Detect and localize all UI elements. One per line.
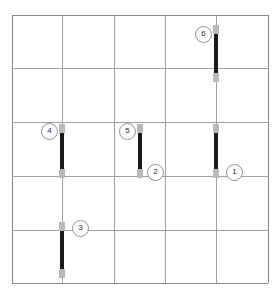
bar-3[interactable] <box>60 222 64 278</box>
diagram-canvas: 645213 <box>0 0 279 290</box>
bar-6[interactable] <box>214 25 218 82</box>
bar-cap-bottom <box>59 169 65 178</box>
marker-badge-2[interactable]: 2 <box>147 164 164 181</box>
bar-cap-top <box>137 124 143 133</box>
bar-cap-bottom <box>137 169 143 178</box>
marker-badge-5[interactable]: 5 <box>119 123 136 140</box>
gridline-horizontal-0 <box>12 15 268 16</box>
marker-badge-4[interactable]: 4 <box>41 123 58 140</box>
marker-badge-1[interactable]: 1 <box>226 164 243 181</box>
marker-badge-3[interactable]: 3 <box>72 220 89 237</box>
marker-badge-6[interactable]: 6 <box>195 26 212 43</box>
bar-1[interactable] <box>214 124 218 178</box>
bar-cap-bottom <box>213 73 219 82</box>
bar-cap-bottom <box>59 269 65 278</box>
gridline-vertical-0 <box>12 15 13 283</box>
bar-4[interactable] <box>60 124 64 178</box>
gridline-vertical-5 <box>268 15 269 283</box>
gridline-horizontal-1 <box>12 68 268 69</box>
gridline-vertical-2 <box>114 15 115 283</box>
bar-5-2[interactable] <box>138 124 142 178</box>
bar-cap-top <box>213 25 219 34</box>
gridline-vertical-3 <box>165 15 166 283</box>
gridline-horizontal-4 <box>12 230 268 231</box>
bar-cap-top <box>213 124 219 133</box>
bar-cap-top <box>59 222 65 231</box>
bar-cap-bottom <box>213 169 219 178</box>
gridline-horizontal-5 <box>12 283 268 284</box>
bar-cap-top <box>59 124 65 133</box>
